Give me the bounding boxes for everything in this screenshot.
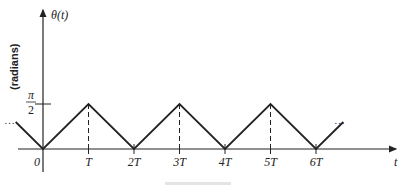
x-tick-label: 5T (264, 155, 278, 169)
x-tick-label: 3T (172, 155, 187, 169)
x-tick-label: 6T (310, 155, 324, 169)
y-axis-unit-label: (radians) (8, 43, 20, 90)
y-tick-label-numerator: π (28, 88, 35, 102)
triangle-wave-line (16, 104, 344, 149)
cut-off-caption (165, 182, 231, 185)
triangular-wave-chart: … … 0T2T3T4T5T6Ttθ(t)(radians)π2 (0, 0, 402, 185)
y-axis-symbol-label: θ(t) (51, 8, 68, 22)
y-tick-label-denominator: 2 (28, 103, 34, 117)
x-tick-label: 4T (219, 155, 233, 169)
x-tick-label: 0 (34, 155, 40, 169)
left-continuation-dots: … (4, 114, 15, 126)
right-continuation-dots: … (334, 114, 345, 126)
x-tick-label: 2T (128, 155, 142, 169)
x-tick-label: T (85, 155, 93, 169)
x-axis-label: t (394, 155, 398, 169)
